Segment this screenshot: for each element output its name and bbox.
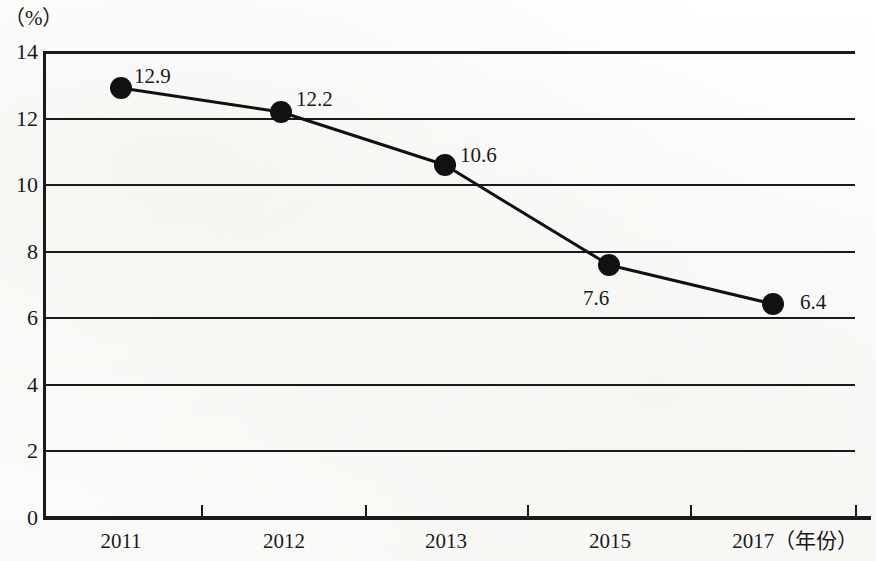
x-tick-label-2011: 2011 — [100, 531, 141, 552]
x-tick-label-2017-year: 2017 — [732, 529, 774, 553]
x-tick-label-2017: 2017（年份） — [732, 531, 858, 552]
x-tick-label-2013: 2013 — [425, 531, 467, 552]
x-axis-unit-label: （年份） — [774, 529, 858, 553]
x-tick-label-2015: 2015 — [589, 531, 631, 552]
x-axis-tick-labels: 2011 2012 2013 2015 2017（年份） — [0, 0, 876, 561]
line-chart-figure: （%） 0 2 4 6 8 10 12 14 — [0, 0, 876, 561]
x-tick-label-2012: 2012 — [263, 531, 305, 552]
